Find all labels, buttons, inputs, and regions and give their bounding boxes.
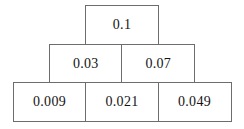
- pyramid-cell: 0.03: [49, 44, 123, 84]
- pyramid-cell: 0.07: [121, 44, 195, 84]
- pyramid-cell: 0.049: [158, 82, 232, 122]
- pyramid-diagram: 0.1 0.03 0.07 0.009 0.021 0.049: [0, 0, 244, 129]
- pyramid-row-middle: 0.03 0.07: [0, 44, 244, 84]
- pyramid-cell: 0.021: [85, 82, 159, 122]
- pyramid-row-bottom: 0.009 0.021 0.049: [0, 82, 244, 122]
- pyramid-cell: 0.1: [85, 5, 159, 45]
- pyramid-cell: 0.009: [13, 82, 87, 122]
- pyramid-row-top: 0.1: [0, 5, 244, 45]
- number-pyramid: 0.1 0.03 0.07 0.009 0.021 0.049: [0, 5, 244, 122]
